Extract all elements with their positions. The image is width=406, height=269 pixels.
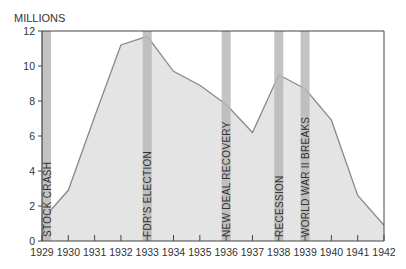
x-tick-label: 1934 — [162, 246, 186, 258]
x-tick-label: 1932 — [109, 246, 133, 258]
event-label: RECESSION — [274, 175, 285, 237]
x-tick-label: 1929 — [30, 246, 54, 258]
event-label: NEW DEAL RECOVERY — [221, 121, 232, 237]
unemployment-chart: MILLIONS STOCK CRASHFDR'S ELECTIONNEW DE… — [0, 0, 406, 269]
x-tick-label: 1937 — [241, 246, 265, 258]
y-tick-label: 6 — [29, 130, 35, 142]
event-label: FDR'S ELECTION — [142, 151, 153, 237]
x-tick-label: 1931 — [83, 246, 107, 258]
y-tick-label: 8 — [29, 95, 35, 107]
y-tick-label: 10 — [23, 60, 35, 72]
x-tick-label: 1930 — [57, 246, 81, 258]
x-tick-label: 1936 — [214, 246, 238, 258]
event-label: STOCK CRASH — [42, 162, 53, 237]
x-tick-label: 1942 — [372, 246, 396, 258]
y-axis-title: MILLIONS — [14, 12, 65, 24]
x-tick-label: 1935 — [188, 246, 212, 258]
x-tick-label: 1941 — [346, 246, 370, 258]
x-tick-label: 1939 — [293, 246, 317, 258]
y-tick-label: 12 — [23, 25, 35, 37]
event-label: WORLD WAR II BREAKS — [300, 117, 311, 237]
x-tick-label: 1938 — [267, 246, 291, 258]
y-tick-label: 2 — [29, 200, 35, 212]
y-tick-label: 4 — [29, 165, 35, 177]
x-tick-label: 1940 — [320, 246, 344, 258]
x-tick-label: 1933 — [136, 246, 160, 258]
data-area — [42, 36, 384, 241]
